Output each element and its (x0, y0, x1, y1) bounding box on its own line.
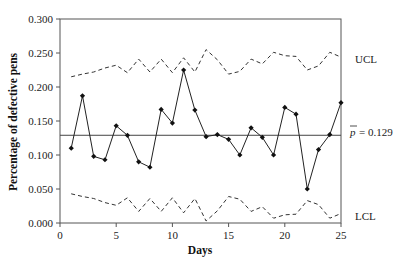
ucl-label: UCL (355, 53, 377, 65)
y-tick-label: 0.050 (28, 183, 53, 195)
p-chart: 0.0000.0500.1000.1500.2000.2500.300 0510… (0, 0, 405, 270)
proportion-line (71, 70, 341, 189)
x-tick-label: 20 (279, 229, 291, 241)
series-group (60, 50, 344, 221)
x-axis-ticks: 0510152025 (57, 223, 347, 241)
data-point-marker (91, 154, 96, 159)
x-tick-label: 5 (113, 229, 119, 241)
y-tick-label: 0.250 (28, 47, 53, 59)
x-tick-label: 15 (223, 229, 235, 241)
y-axis-title: Percentage of defective pens (7, 52, 20, 191)
data-point-marker (338, 100, 343, 105)
y-axis-ticks: 0.0000.0500.1000.1500.2000.2500.300 (28, 13, 60, 229)
y-tick-label: 0.200 (28, 81, 53, 93)
lcl-line (71, 194, 341, 221)
lcl-label: LCL (355, 210, 376, 222)
x-tick-label: 25 (336, 229, 348, 241)
data-point-marker (147, 165, 152, 170)
data-point-marker (102, 157, 107, 162)
p-bar-symbol: p (349, 126, 356, 138)
data-point-marker (80, 93, 85, 98)
data-point-marker (69, 146, 74, 151)
data-point-marker (271, 152, 276, 157)
p-bar-label: p = 0.129 (349, 126, 393, 138)
p-bar-value: = 0.129 (359, 126, 393, 138)
data-point-marker (215, 132, 220, 137)
y-tick-label: 0.300 (28, 13, 53, 25)
axes (60, 19, 341, 223)
y-tick-label: 0.100 (28, 149, 53, 161)
plot-frame (60, 19, 341, 223)
data-point-marker (136, 159, 141, 164)
data-point-marker (305, 186, 310, 191)
data-point-marker (293, 112, 298, 117)
x-tick-label: 0 (57, 229, 63, 241)
y-tick-label: 0.000 (28, 217, 53, 229)
data-point-marker (282, 105, 287, 110)
data-point-marker (181, 67, 186, 72)
x-axis-title: Days (188, 244, 213, 257)
y-tick-label: 0.150 (28, 115, 53, 127)
x-tick-label: 10 (167, 229, 179, 241)
data-point-marker (192, 108, 197, 113)
ucl-line (71, 50, 341, 77)
